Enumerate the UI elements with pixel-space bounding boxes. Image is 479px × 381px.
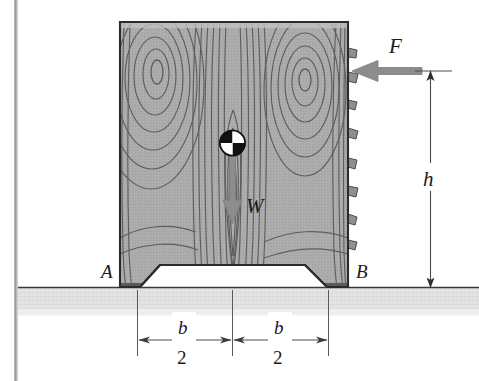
ground-surface <box>18 288 479 317</box>
force-label: F <box>388 34 402 58</box>
height-label: h <box>423 167 434 191</box>
corner-label-b: B <box>356 261 368 282</box>
fraction-denominator: 2 <box>273 347 283 368</box>
page-edge-rule <box>16 0 18 381</box>
height-dimension: h <box>415 71 452 288</box>
center-of-mass-icon <box>220 131 245 156</box>
fraction-denominator: 2 <box>177 347 187 368</box>
figure-canvas: F W A B h <box>0 0 479 381</box>
mechanics-figure: F W A B h <box>0 0 479 381</box>
corner-label-a: A <box>99 261 113 282</box>
fraction-numerator: b <box>274 317 284 338</box>
dimension-label-right: b 2 <box>268 312 292 368</box>
dimension-label-left: b 2 <box>172 312 196 368</box>
fraction-numerator: b <box>178 317 188 338</box>
force-arrow-left-icon <box>352 61 422 82</box>
block-edge-splinters <box>348 48 358 250</box>
weight-label: W <box>246 194 266 218</box>
